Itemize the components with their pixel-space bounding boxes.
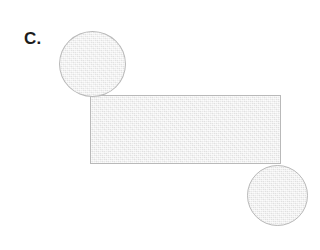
figure-canvas: C. <box>0 0 320 250</box>
circle-bottom-right <box>247 165 308 226</box>
figure-label: C. <box>24 30 41 47</box>
circle-top-left <box>59 31 126 97</box>
rectangle-main <box>90 95 281 164</box>
